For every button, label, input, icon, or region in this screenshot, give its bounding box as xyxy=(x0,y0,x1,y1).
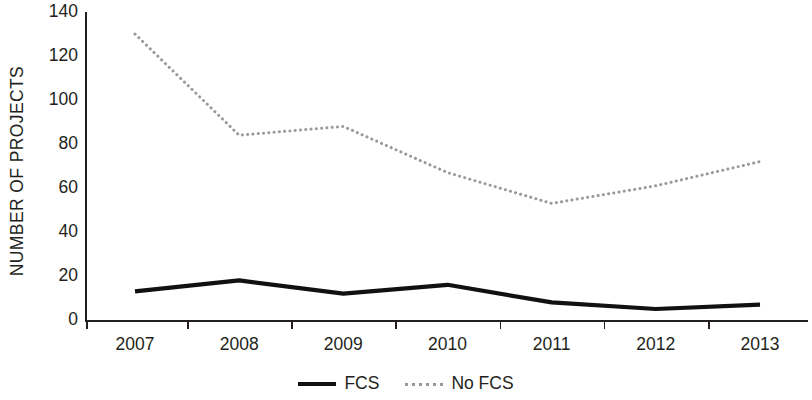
y-axis-tick-label: 60 xyxy=(36,179,78,197)
x-axis-tick-mark xyxy=(86,321,88,329)
y-axis-tick-label: 20 xyxy=(36,267,78,285)
x-axis-tick-mark xyxy=(187,321,189,329)
x-axis-tick-label: 2011 xyxy=(507,334,597,355)
legend-label: FCS xyxy=(344,375,379,393)
x-axis-tick-mark xyxy=(291,321,293,329)
y-axis-tick-label: 80 xyxy=(36,135,78,153)
x-axis-tick-label: 2008 xyxy=(194,334,284,355)
legend-entry-fcs[interactable]: FCS xyxy=(298,375,379,393)
x-axis-tick-label: 2010 xyxy=(403,334,493,355)
x-axis-tick-label: 2013 xyxy=(715,334,805,355)
y-axis-tick-labels: 020406080100120140 xyxy=(30,0,78,340)
y-axis-tick-label: 140 xyxy=(36,3,78,21)
x-axis-tick-mark xyxy=(395,321,397,329)
solid-line-swatch-icon xyxy=(298,382,336,386)
x-axis-tick-mark xyxy=(708,321,710,329)
x-axis-tick-label: 2009 xyxy=(298,334,388,355)
x-axis-line xyxy=(85,320,808,322)
y-axis-tick-label: 120 xyxy=(36,47,78,65)
legend-entry-no-fcs[interactable]: No FCS xyxy=(405,375,513,393)
y-axis-title: NUMBER OF PROJECTS xyxy=(4,6,30,336)
x-axis-tick-label: 2012 xyxy=(611,334,701,355)
x-axis-tick-mark xyxy=(500,321,502,329)
series-svg xyxy=(85,12,808,320)
x-axis-tick-label: 2007 xyxy=(90,334,180,355)
dotted-line-swatch-icon xyxy=(405,383,443,386)
series-line-fcs xyxy=(135,280,760,309)
y-axis-tick-label: 100 xyxy=(36,91,78,109)
chart-legend: FCSNo FCS xyxy=(0,371,812,397)
y-axis-tick-label: 40 xyxy=(36,223,78,241)
line-chart: NUMBER OF PROJECTS 020406080100120140 20… xyxy=(0,0,812,400)
x-axis-tick-mark xyxy=(604,321,606,329)
series-line-no-fcs xyxy=(135,34,760,203)
y-axis-tick-label: 0 xyxy=(36,311,78,329)
legend-label: No FCS xyxy=(451,375,513,393)
plot-area xyxy=(85,12,808,320)
